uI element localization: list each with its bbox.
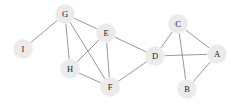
graph-node-disc-B: [179, 81, 196, 98]
graph-node-H[interactable]: H: [60, 59, 80, 79]
graph-diagram: ABCDEFGHI: [0, 0, 245, 105]
graph-node-disc-E: [98, 25, 115, 42]
graph-node-A[interactable]: A: [207, 44, 227, 64]
graph-node-G[interactable]: G: [55, 4, 75, 24]
graph-node-disc-G: [57, 6, 74, 23]
graph-node-disc-A: [209, 46, 226, 63]
graph-node-B[interactable]: B: [177, 79, 197, 99]
graph-node-D[interactable]: D: [145, 46, 165, 66]
graph-node-F[interactable]: F: [100, 77, 120, 97]
graph-node-E[interactable]: E: [96, 23, 116, 43]
graph-node-disc-H: [62, 61, 79, 78]
graph-node-C[interactable]: C: [168, 14, 188, 34]
graph-canvas: ABCDEFGHI: [0, 0, 245, 105]
graph-node-disc-C: [170, 16, 187, 33]
graph-node-disc-D: [147, 48, 164, 65]
graph-node-disc-F: [102, 79, 119, 96]
graph-node-I[interactable]: I: [13, 39, 33, 59]
node-layer: ABCDEFGHI: [13, 4, 227, 99]
graph-node-disc-I: [15, 41, 32, 58]
